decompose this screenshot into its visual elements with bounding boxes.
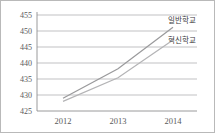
series-label-hyeoksin-hakgyo: 혁신학교 xyxy=(168,35,196,45)
chart-screenshot: 455 450 445 440 435 430 425 2012 2013 20… xyxy=(0,0,215,133)
y-tick-label-450: 450 xyxy=(20,27,32,36)
y-tick-label-430: 430 xyxy=(20,91,32,100)
series-label-ilban-hakgyo: 일반학교 xyxy=(168,15,196,25)
line-chart: 455 450 445 440 435 430 425 2012 2013 20… xyxy=(1,1,215,133)
x-tick-label-2014: 2014 xyxy=(165,116,183,126)
gridlines xyxy=(37,15,197,95)
y-tick-label-435: 435 xyxy=(20,75,32,84)
y-tick-label-425: 425 xyxy=(20,107,32,116)
y-tick-labels: 455 450 445 440 435 430 425 xyxy=(20,11,32,116)
x-tick-label-2013: 2013 xyxy=(110,116,127,126)
x-tick-labels: 2012 2013 2014 xyxy=(55,116,183,126)
series-line-hyeoksin-hakgyo xyxy=(63,40,173,101)
y-tick-label-445: 445 xyxy=(20,43,32,52)
x-tick-label-2012: 2012 xyxy=(55,116,72,126)
y-tick-label-440: 440 xyxy=(20,59,32,68)
y-tick-label-455: 455 xyxy=(20,11,32,20)
